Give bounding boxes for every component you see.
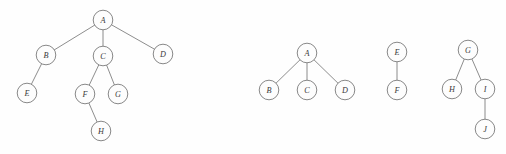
graph-edge-c-f	[89, 65, 99, 85]
nodes-layer: ABCDEFGHABCDEFGHIJ	[17, 10, 495, 141]
node-label: F	[393, 86, 400, 95]
graph-node-tree-1-e[interactable]: E	[17, 83, 37, 103]
node-label: F	[81, 90, 88, 99]
graph-edge-b-e	[31, 64, 41, 84]
graph-nodes-tree-left-abcdefgh: ABCDEFGH	[17, 10, 173, 141]
node-label: A	[303, 49, 310, 58]
graph-node-tree-2-a[interactable]: A	[297, 43, 317, 63]
graph-node-tree-1-a[interactable]: A	[93, 10, 113, 30]
graph-node-tree-3-e[interactable]: E	[387, 42, 407, 62]
graph-edges-tree-abcd	[276, 60, 338, 83]
node-label: E	[23, 89, 29, 98]
node-label: A	[99, 16, 106, 25]
graph-node-tree-2-d[interactable]: D	[335, 80, 355, 100]
graph-figure: ABCDEFGHABCDEFGHIJ	[0, 0, 506, 154]
node-label: D	[341, 86, 348, 95]
graph-node-tree-1-g[interactable]: G	[108, 84, 128, 104]
graph-nodes-tree-ghij: GHIJ	[442, 40, 495, 139]
graph-node-tree-3-f[interactable]: F	[387, 80, 407, 100]
graph-edge-a-b	[276, 60, 300, 83]
node-label: D	[159, 50, 166, 59]
graph-canvas: ABCDEFGHABCDEFGHIJ	[0, 0, 506, 154]
graph-node-tree-2-b[interactable]: B	[259, 80, 279, 100]
graph-edge-c-g	[107, 65, 115, 85]
node-label: C	[304, 86, 310, 95]
node-label: E	[393, 48, 399, 57]
node-label: J	[483, 125, 487, 134]
graph-edge-f-h	[89, 103, 97, 122]
graph-edges-tree-left-abcdefgh	[31, 25, 154, 122]
node-label: H	[97, 127, 105, 136]
node-label: G	[465, 46, 471, 55]
graph-node-tree-2-c[interactable]: C	[297, 80, 317, 100]
node-label: B	[43, 51, 48, 60]
graph-node-tree-1-b[interactable]: B	[36, 45, 56, 65]
node-label: C	[100, 52, 106, 61]
graph-node-tree-4-i[interactable]: I	[475, 79, 495, 99]
graph-edge-g-i	[472, 59, 481, 80]
node-label: H	[448, 85, 456, 94]
graph-node-tree-1-d[interactable]: D	[153, 44, 173, 64]
graph-node-tree-1-h[interactable]: H	[91, 121, 111, 141]
graph-edge-a-d	[112, 25, 155, 49]
graph-edge-a-b	[54, 25, 94, 50]
graph-node-tree-4-g[interactable]: G	[458, 40, 478, 60]
graph-edge-a-d	[314, 60, 338, 83]
graph-edge-g-h	[456, 59, 465, 80]
node-label: B	[266, 86, 271, 95]
graph-node-tree-1-f[interactable]: F	[75, 84, 95, 104]
node-label: G	[115, 90, 121, 99]
graph-node-tree-4-j[interactable]: J	[475, 119, 495, 139]
graph-node-tree-4-h[interactable]: H	[442, 79, 462, 99]
graph-node-tree-1-c[interactable]: C	[93, 46, 113, 66]
edges-layer	[31, 25, 485, 122]
